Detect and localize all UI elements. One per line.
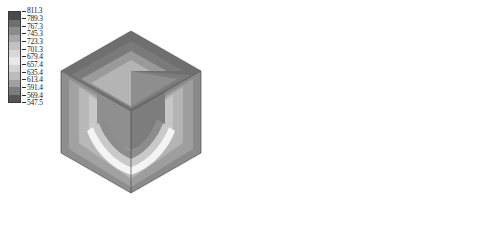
colorbar-swatch-7 xyxy=(9,65,20,73)
cube-temperature[interactable] xyxy=(57,27,205,199)
colorbar-swatch-10 xyxy=(9,87,20,95)
panel-temperature: 811.3789.3767.3745.3723.3701.3679.4657.4… xyxy=(0,0,243,226)
colorbar-swatch-3 xyxy=(9,35,20,43)
colorbar-tick-dash xyxy=(22,18,26,19)
colorbar-swatch-11 xyxy=(9,95,20,103)
colorbar-tick-dash xyxy=(22,79,26,80)
panel-stress: 8.7×1078.0×1077.3×1076.6×1075.9×1075.2×1… xyxy=(244,0,487,226)
colorbar-swatch-2 xyxy=(9,27,20,35)
colorbar-tick-dash xyxy=(22,64,26,65)
colorbar-tick-dash xyxy=(22,95,26,96)
colorbar-tick-dash xyxy=(22,56,26,57)
colorbar-labels: 811.3789.3767.3745.3723.3701.3679.4657.4… xyxy=(22,11,43,103)
colorbar-swatches xyxy=(8,11,21,103)
colorbar-tick-dash xyxy=(22,49,26,50)
colorbar-tick-dash xyxy=(22,33,26,34)
colorbar-swatch-6 xyxy=(9,57,20,65)
colorbar-swatch-9 xyxy=(9,80,20,88)
colorbar-tick-dash xyxy=(22,72,26,73)
colorbar-swatch-8 xyxy=(9,72,20,80)
colorbar-tick-label: 547.5 xyxy=(27,99,43,106)
colorbar-tick-dash xyxy=(22,87,26,88)
colorbar-tick-dash xyxy=(22,11,26,12)
colorbar-swatch-1 xyxy=(9,20,20,28)
colorbar-tick-dash xyxy=(22,26,26,27)
temperature-colorbar[interactable]: 811.3789.3767.3745.3723.3701.3679.4657.4… xyxy=(8,11,43,103)
colorbar-tick-dash xyxy=(22,41,26,42)
figure-canvas: 811.3789.3767.3745.3723.3701.3679.4657.4… xyxy=(0,0,487,226)
colorbar-swatch-0 xyxy=(9,12,20,20)
colorbar-swatch-4 xyxy=(9,42,20,50)
colorbar-swatch-5 xyxy=(9,50,20,58)
colorbar-tick-dash xyxy=(22,102,26,103)
